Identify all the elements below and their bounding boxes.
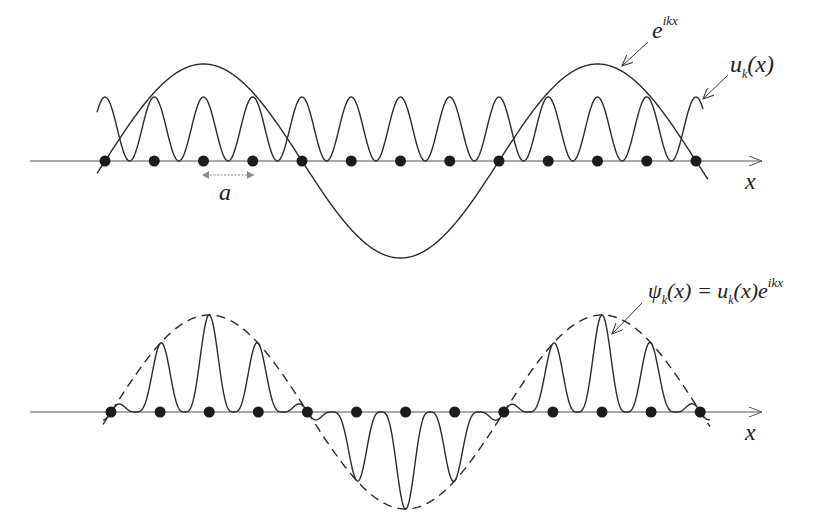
bottom-x-axis-label-text: x: [745, 419, 756, 445]
plane-wave-label-exponent: ikx: [663, 13, 678, 28]
bloch-u-sub: k: [728, 293, 733, 307]
atom: [400, 407, 411, 418]
atom: [543, 156, 554, 167]
atom: [351, 407, 362, 418]
atom: [592, 156, 603, 167]
bloch-wave-diagram: [0, 0, 819, 531]
atom: [547, 407, 558, 418]
periodic-function-label-arg: (x): [747, 51, 774, 77]
bottom-x-axis-label: x: [745, 420, 756, 444]
atom: [302, 407, 313, 418]
atom: [498, 407, 509, 418]
lattice-spacing-label: a: [219, 180, 231, 204]
atom: [253, 407, 264, 418]
plane-wave-callout-arrow: [622, 42, 648, 66]
atom: [494, 156, 505, 167]
bloch-equals-u: (x) = u: [667, 278, 728, 303]
atom: [395, 156, 406, 167]
plane-wave-label: eikx: [652, 18, 678, 42]
periodic-function-curve: [97, 97, 703, 161]
atom: [100, 156, 111, 167]
atom: [597, 407, 608, 418]
plane-wave-label-base: e: [652, 17, 663, 43]
atom: [149, 156, 160, 167]
atom: [646, 407, 657, 418]
atom: [691, 156, 702, 167]
bloch-psi-symbol: ψ: [648, 278, 662, 303]
atom: [198, 156, 209, 167]
periodic-function-label-sub: k: [742, 67, 747, 81]
bottom-panel: [30, 303, 762, 509]
top-x-axis-label-text: x: [745, 168, 756, 194]
lattice-spacing-label-text: a: [219, 179, 231, 205]
periodic-function-label: uk(x): [730, 52, 774, 76]
top-x-axis-label: x: [745, 169, 756, 193]
atom: [695, 407, 706, 418]
atom: [106, 407, 117, 418]
atom: [247, 156, 258, 167]
atom: [449, 407, 460, 418]
atom: [204, 407, 215, 418]
atom: [641, 156, 652, 167]
periodic-function-label-base: u: [730, 51, 742, 77]
bloch-tail: (x)e: [734, 278, 768, 303]
bloch-exponent: ikx: [768, 275, 783, 290]
atom: [444, 156, 455, 167]
bloch-psi-sub: k: [662, 293, 667, 307]
atom: [155, 407, 166, 418]
atom: [346, 156, 357, 167]
atom: [297, 156, 308, 167]
bloch-wave-label: ψk(x) = uk(x)eikx: [648, 280, 783, 302]
periodic-function-callout-arrow: [703, 75, 728, 99]
top-panel: [30, 42, 762, 258]
